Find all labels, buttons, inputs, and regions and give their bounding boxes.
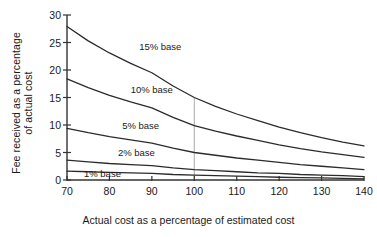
curve-label-10base: 10% base — [131, 84, 173, 95]
curve-label-5base: 5% base — [122, 120, 159, 131]
x-axis-title: Actual cost as a percentage of estimated… — [0, 214, 377, 226]
curve-label-2base: 2% base — [118, 147, 155, 158]
curve-15base — [67, 27, 364, 146]
curve-10base — [67, 79, 364, 158]
curve-label-1base: 1% base — [84, 168, 121, 179]
curve-label-15base: 15% base — [139, 41, 181, 52]
plot-area — [0, 0, 377, 237]
fee-curve-chart: Fee received as a percentage of actual c… — [0, 0, 377, 237]
